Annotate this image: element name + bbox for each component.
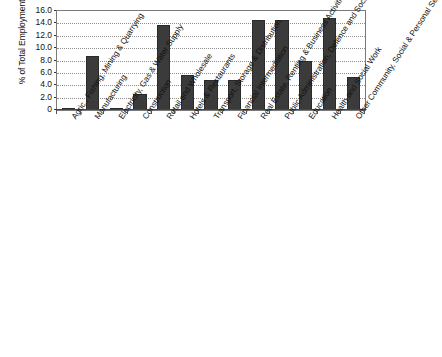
x-tick-mark [269,110,270,114]
y-tick-label: 16.0 [35,6,52,15]
x-tick-mark [222,110,223,114]
x-tick-mark [340,110,341,114]
x-tick-mark [246,110,247,114]
y-tick-label: 12.0 [35,31,52,40]
y-axis-tick-labels: 16.014.012.010.08.06.04.02.00 [24,5,54,115]
x-tick-mark [364,110,365,114]
x-tick-mark [198,110,199,114]
y-tick-label: 14.0 [35,18,52,27]
x-tick-mark [151,110,152,114]
y-tick-label: 10.0 [35,43,52,52]
y-tick-label: 6.0 [40,68,52,77]
x-tick-mark [103,110,104,114]
x-tick-mark [174,110,175,114]
y-tick-label: 0 [47,105,52,114]
y-tick-label: 8.0 [40,56,52,65]
y-tick-label: 4.0 [40,80,52,89]
x-tick-mark [127,110,128,114]
y-tick-label: 2.0 [40,93,52,102]
x-axis-category-labels: Agric., Fishing, Mining & QuarryingManuf… [0,114,371,357]
x-tick-mark [80,110,81,114]
x-tick-mark [293,110,294,114]
x-tick-mark [56,110,57,114]
x-tick-mark [317,110,318,114]
